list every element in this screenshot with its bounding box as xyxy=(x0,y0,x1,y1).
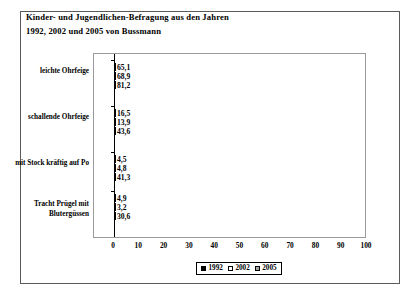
legend-label-2002: 2002 xyxy=(235,264,249,273)
chart-title-line-1: Kinder- und Jugendlichen-Befragung aus d… xyxy=(26,11,356,25)
x-tick-0: 0 xyxy=(111,241,115,250)
legend-entry-2002[interactable]: 2002 xyxy=(228,264,250,273)
bar-value-2002-leichte-ohrfeige: 68,9 xyxy=(114,72,130,81)
category-tick xyxy=(111,106,114,107)
bar-value-2002-tracht-pruegel: 3,2 xyxy=(114,203,127,212)
bar-value-2005-tracht-pruegel: 4,9 xyxy=(114,194,127,203)
bar-value-2005-schallende-ohrfeige: 16,5 xyxy=(114,109,130,118)
bar-group-mit-stock-kraeftig-auf-po: 4,5 4,8 41,3 xyxy=(114,152,365,189)
category-label-mit-stock-kraeftig-auf-po: mit Stock kräftig auf Po xyxy=(1,158,93,168)
legend-swatch-icon-1992 xyxy=(201,266,206,271)
chart-title: Kinder- und Jugendlichen-Befragung aus d… xyxy=(26,11,356,38)
legend-entry-2005[interactable]: 2005 xyxy=(255,264,277,273)
x-tick-100: 100 xyxy=(360,241,371,250)
category-tick xyxy=(111,60,114,61)
x-tick-30: 30 xyxy=(185,241,192,250)
x-tick-70: 70 xyxy=(286,241,293,250)
bar-value-1992-schallende-ohrfeige: 43,6 xyxy=(114,127,130,136)
chart-legend: 1992 2002 2005 xyxy=(196,262,282,275)
bar-value-1992-tracht-pruegel: 30,6 xyxy=(114,212,130,221)
category-axis-labels: leichte Ohrfeige schallende Ohrfeige mit… xyxy=(0,53,93,238)
x-tick-40: 40 xyxy=(210,241,217,250)
category-label-leichte-ohrfeige: leichte Ohrfeige xyxy=(1,66,93,76)
bar-value-2002-schallende-ohrfeige: 13,9 xyxy=(114,118,130,127)
category-tick xyxy=(111,191,114,192)
chart-title-line-2: 1992, 2002 und 2005 von Bussmann xyxy=(26,25,356,39)
x-tick-20: 20 xyxy=(160,241,167,250)
bar-group-leichte-ohrfeige: 65,1 68,9 81,2 xyxy=(114,60,365,97)
x-tick-60: 60 xyxy=(261,241,268,250)
legend-label-2005: 2005 xyxy=(262,264,276,273)
bar-value-2002-mit-stock-kraeftig-auf-po: 4,8 xyxy=(114,164,127,173)
plot-area: 65,1 68,9 81,2 16,5 13,9 xyxy=(93,53,366,238)
x-tick-80: 80 xyxy=(312,241,319,250)
legend-label-1992: 1992 xyxy=(209,264,223,273)
value-axis-labels: 0 10 20 30 40 50 60 70 80 90 100 xyxy=(113,241,366,253)
bar-value-2005-mit-stock-kraeftig-auf-po: 4,5 xyxy=(114,155,127,164)
x-tick-50: 50 xyxy=(236,241,243,250)
bar-group-schallende-ohrfeige: 16,5 13,9 43,6 xyxy=(114,106,365,143)
bar-value-2005-leichte-ohrfeige: 65,1 xyxy=(114,63,130,72)
category-label-tracht-pruegel-mit-bluteguessen: Tracht Prügel mit Blutergüssen xyxy=(1,199,93,219)
x-tick-90: 90 xyxy=(337,241,344,250)
category-label-schallende-ohrfeige: schallende Ohrfeige xyxy=(1,112,93,122)
category-tick xyxy=(111,152,114,153)
x-tick-10: 10 xyxy=(135,241,142,250)
bar-value-1992-leichte-ohrfeige: 81,2 xyxy=(114,81,130,90)
legend-swatch-icon-2005 xyxy=(255,266,260,271)
legend-entry-1992[interactable]: 1992 xyxy=(201,264,223,273)
legend-swatch-icon-2002 xyxy=(228,266,233,271)
bar-value-1992-mit-stock-kraeftig-auf-po: 41,3 xyxy=(114,173,130,182)
bar-group-tracht-pruegel-mit-bluteguessen: 4,9 3,2 30,6 xyxy=(114,191,365,228)
plot-inner: 65,1 68,9 81,2 16,5 13,9 xyxy=(114,54,365,237)
